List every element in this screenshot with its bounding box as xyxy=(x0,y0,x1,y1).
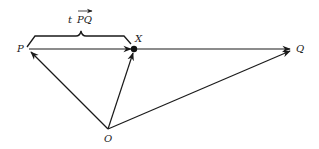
label-q: Q xyxy=(296,43,304,54)
label-o: O xyxy=(104,133,112,144)
vector-diagram: t PQ P X Q O xyxy=(0,0,319,149)
brace-scalar-label: t xyxy=(68,14,73,25)
vector-op xyxy=(31,52,108,129)
brace-vector-label: PQ xyxy=(76,14,92,25)
vector-ox xyxy=(108,53,133,129)
brace-t-pq xyxy=(27,31,131,47)
label-p: P xyxy=(16,43,24,54)
diagram-svg: t PQ P X Q O xyxy=(0,0,319,149)
label-x: X xyxy=(134,33,143,44)
vector-oq xyxy=(108,51,290,129)
point-x-dot xyxy=(131,46,137,52)
